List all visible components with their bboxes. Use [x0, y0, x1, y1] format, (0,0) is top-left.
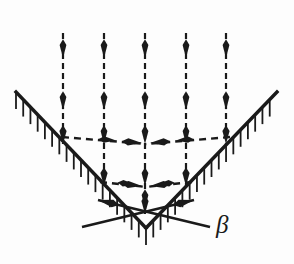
- figure-container: β: [0, 0, 294, 264]
- beta-angle-label: β: [216, 212, 228, 237]
- wedge-flow-diagram: [0, 0, 294, 264]
